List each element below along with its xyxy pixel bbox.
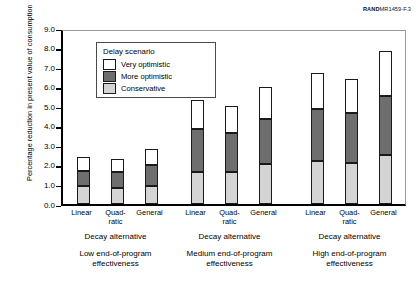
x-axis-tick-label: General (127, 209, 173, 218)
bar-segment (311, 73, 324, 109)
y-axis-tick-label: 1.0 (44, 181, 55, 190)
legend-swatch-icon (103, 59, 116, 70)
y-axis-tick-mark (56, 186, 61, 188)
bar (77, 157, 90, 204)
x-axis-tick-label-line: ratic (207, 218, 253, 227)
y-axis-tick-mark (56, 30, 61, 32)
y-axis-tick-label: 8.0 (44, 44, 55, 53)
bar-segment (345, 79, 358, 113)
legend: Delay scenario Very optimisticMore optim… (96, 42, 216, 98)
legend-entry: More optimistic (103, 71, 210, 81)
y-axis-tick-mark (56, 88, 61, 90)
bar (225, 106, 238, 204)
figure-source-id-bold: RAND (363, 6, 380, 12)
bar-segment (225, 172, 238, 204)
legend-entry-label: More optimistic (121, 72, 172, 81)
group-caption-line: effectiveness (275, 259, 417, 269)
bar-segment (311, 109, 324, 161)
x-axis-tick-label: General (361, 209, 407, 218)
y-axis-tick-mark (56, 49, 61, 51)
bar-segment (259, 164, 272, 204)
x-axis-tick-label-line: ratic (327, 218, 373, 227)
bar-segment (225, 106, 238, 132)
bar-segment (259, 87, 272, 119)
legend-swatch-icon (103, 71, 116, 82)
bar-segment (345, 163, 358, 204)
bar-segment (379, 96, 392, 155)
bar (145, 149, 158, 204)
bar (345, 79, 358, 204)
group-axis-label: Decay alternative (275, 232, 417, 242)
legend-entry-label: Conservative (121, 84, 165, 93)
bar-segment (111, 159, 124, 172)
bar-segment (191, 100, 204, 128)
bar-segment (77, 157, 90, 171)
bar (111, 159, 124, 204)
bar-segment (379, 155, 392, 204)
bar-segment (77, 171, 90, 187)
y-axis-tick-mark (56, 166, 61, 168)
y-axis-title: Percentage reduction in present value of… (25, 3, 34, 183)
x-axis-tick-label-line: General (127, 209, 173, 218)
bar-segment (191, 172, 204, 204)
legend-title: Delay scenario (103, 47, 210, 56)
figure-source-id-rest: MR1459-F.3 (380, 6, 411, 12)
bar-segment (259, 119, 272, 164)
y-axis-tick-label: 6.0 (44, 83, 55, 92)
bar-segment (111, 172, 124, 189)
x-axis-tick-label: General (241, 209, 287, 218)
y-axis-tick-label: 7.0 (44, 64, 55, 73)
bar-segment (77, 186, 90, 204)
bar-segment (311, 161, 324, 204)
y-axis-tick-mark (56, 206, 61, 208)
bar-segment (145, 165, 158, 187)
legend-entry-label: Very optimistic (121, 60, 170, 69)
bar-segment (345, 113, 358, 163)
y-axis-tick-label: 9.0 (44, 25, 55, 34)
bar (311, 73, 324, 204)
bar-segment (145, 149, 158, 165)
y-axis-tick-label: 2.0 (44, 161, 55, 170)
y-axis-tick-mark (56, 69, 61, 71)
y-axis-tick-mark (56, 127, 61, 129)
x-axis-tick-label-line: ratic (93, 218, 139, 227)
y-axis-tick-label: 4.0 (44, 122, 55, 131)
bar (191, 100, 204, 204)
x-axis-tick-label-line: General (241, 209, 287, 218)
figure-container: RANDMR1459-F.3 Percentage reduction in p… (0, 0, 417, 296)
bar-segment (225, 133, 238, 172)
legend-entry: Conservative (103, 83, 210, 93)
bar-segment (145, 186, 158, 204)
bar (379, 51, 392, 205)
x-axis-tick-label-line: General (361, 209, 407, 218)
legend-entries: Very optimisticMore optimisticConservati… (103, 59, 210, 93)
y-axis-tick-mark (56, 147, 61, 149)
bar (259, 87, 272, 204)
legend-entry: Very optimistic (103, 59, 210, 69)
group-caption: High end-of-programeffectiveness (275, 249, 417, 269)
bar-segment (379, 51, 392, 97)
y-axis-tick-mark (56, 108, 61, 110)
figure-source-id: RANDMR1459-F.3 (363, 6, 411, 12)
y-axis-tick-label: 3.0 (44, 142, 55, 151)
y-axis-tick-label: 5.0 (44, 103, 55, 112)
legend-swatch-icon (103, 83, 116, 94)
y-axis-tick-label: 0.0 (44, 201, 55, 210)
bar-segment (111, 188, 124, 204)
group-caption-line: High end-of-program (275, 249, 417, 259)
bar-segment (191, 129, 204, 172)
